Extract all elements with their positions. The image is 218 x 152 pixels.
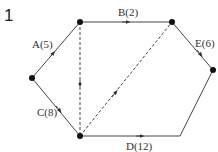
label-e: E(6)	[195, 37, 215, 50]
label-d: D(12)	[126, 140, 153, 152]
label-b: B(2)	[118, 6, 139, 19]
edge-a	[32, 22, 80, 78]
label-a: A(5)	[32, 38, 53, 51]
node-top-right	[169, 19, 175, 25]
node-bottom-left	[77, 133, 83, 139]
label-c: C(8)	[37, 106, 58, 119]
node-left	[29, 75, 35, 81]
node-top-left	[77, 19, 83, 25]
dummy-edge-diagonal	[80, 22, 172, 136]
node-right	[210, 67, 216, 73]
edge-unlabeled	[180, 70, 213, 136]
network-diagram: A(5) B(2) E(6) C(8) D(12)	[0, 0, 218, 152]
